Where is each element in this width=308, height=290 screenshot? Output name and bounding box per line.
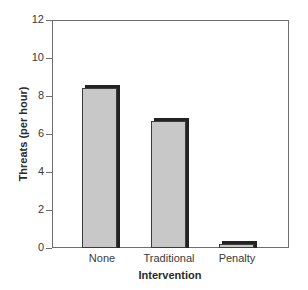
y-axis-title: Threats (per hour) [17,87,29,182]
y-tick-12 [46,20,52,21]
y-tick-2 [46,210,52,211]
bar-chart: 0 2 4 6 8 10 12 None Traditional Penalty… [0,0,308,290]
y-tick-label: 2 [8,203,44,215]
y-tick-10 [46,58,52,59]
bar-none [82,88,117,248]
bar-penalty [219,244,254,248]
y-tick-label: 10 [8,51,44,63]
y-tick-4 [46,172,52,173]
bar-traditional [151,121,186,248]
y-tick-label: 0 [8,241,44,253]
y-tick-label: 12 [8,13,44,25]
y-tick-0 [46,248,52,249]
y-tick-6 [46,134,52,135]
x-axis-title: Intervention [100,269,240,281]
x-tick-label-penalty: Penalty [197,252,277,264]
y-tick-8 [46,96,52,97]
